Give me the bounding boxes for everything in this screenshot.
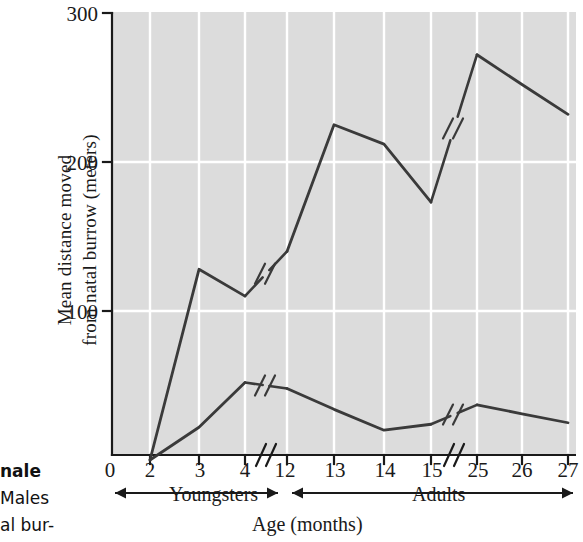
range-brackets xyxy=(115,488,573,499)
y-axis-ticks xyxy=(103,13,112,311)
x-axis-ticks xyxy=(150,455,568,464)
plot-background xyxy=(112,12,576,455)
